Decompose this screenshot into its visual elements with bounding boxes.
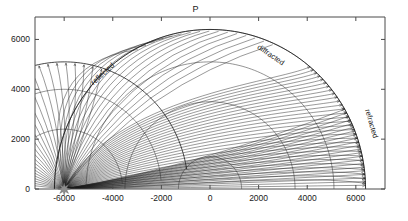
ray-arrowhead — [74, 64, 76, 67]
y-tick-label: 4000 — [11, 84, 30, 94]
x-tick-label: -4000 — [102, 193, 124, 203]
ray-paths-group — [0, 31, 366, 189]
seismic-ray-diagram-svg: -6000-4000-20000200040006000020004000600… — [0, 0, 408, 221]
y-tick-label: 6000 — [11, 34, 30, 44]
ray-arrowhead — [22, 71, 24, 74]
diffracted-ray — [64, 31, 200, 189]
refracted-ray — [64, 121, 351, 189]
x-tick-label: 0 — [208, 193, 213, 203]
ray-arrowhead — [13, 74, 15, 77]
reflected-ray — [0, 95, 64, 189]
figure-root: -6000-4000-20000200040006000020004000600… — [0, 0, 408, 221]
reflected-ray — [0, 83, 64, 189]
x-tick-label: 2000 — [249, 193, 268, 203]
x-tick-label: 6000 — [346, 193, 365, 203]
ray-arrowhead — [83, 65, 85, 68]
ray-arrowhead — [5, 79, 7, 82]
p-phase-label: P — [192, 4, 198, 14]
x-tick-label: -2000 — [151, 193, 173, 203]
ray-arrowhead — [30, 68, 32, 71]
annotation-diffracted: diffracted — [256, 42, 286, 67]
outer-boundary-arc — [54, 29, 365, 189]
source-star-marker — [58, 183, 70, 195]
annotation-refracted: refracted — [363, 108, 380, 139]
x-tick-label: 4000 — [298, 193, 317, 203]
y-tick-label: 2000 — [11, 134, 30, 144]
wavefront-arc — [54, 29, 365, 189]
y-tick-label: 0 — [25, 184, 30, 194]
reflected-ray — [0, 101, 64, 189]
